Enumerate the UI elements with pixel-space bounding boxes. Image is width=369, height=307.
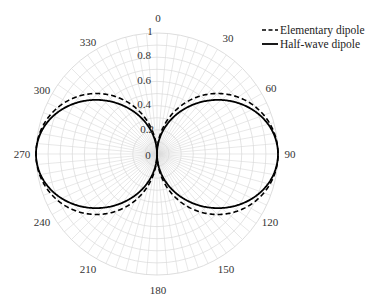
radial-label-0: 0 xyxy=(145,149,151,161)
legend: Elementary dipole Half-wave dipole xyxy=(262,24,365,51)
radial-label-0.8: 0.8 xyxy=(137,49,151,61)
grid-spoke xyxy=(157,154,188,271)
angle-label-210: 210 xyxy=(80,263,97,275)
angle-label-30: 30 xyxy=(223,32,235,44)
angle-label-270: 270 xyxy=(14,148,31,160)
grid-spoke xyxy=(157,37,188,154)
grid-spoke xyxy=(157,154,274,185)
angle-label-300: 300 xyxy=(34,84,51,96)
legend-label-elementary: Elementary dipole xyxy=(280,24,365,37)
angle-label-330: 330 xyxy=(80,36,97,48)
angle-label-0: 0 xyxy=(155,12,161,24)
radial-label-0.2: 0.2 xyxy=(140,123,154,135)
grid-spoke xyxy=(126,154,157,271)
grid-spoke xyxy=(40,154,157,185)
radial-label-1: 1 xyxy=(147,25,153,37)
angle-label-180: 180 xyxy=(150,284,167,296)
radial-label-0.4: 0.4 xyxy=(137,98,151,110)
polar-chart: 0 30 60 90 120 150 180 210 240 270 300 3… xyxy=(0,0,369,307)
angle-label-60: 60 xyxy=(266,82,278,94)
angle-label-120: 120 xyxy=(262,216,279,228)
angle-label-240: 240 xyxy=(34,216,51,228)
legend-label-halfwave: Half-wave dipole xyxy=(280,38,360,51)
grid-spoke xyxy=(157,123,274,154)
radial-label-0.6: 0.6 xyxy=(137,74,151,86)
angle-label-90: 90 xyxy=(285,148,297,160)
angle-label-150: 150 xyxy=(218,263,235,275)
